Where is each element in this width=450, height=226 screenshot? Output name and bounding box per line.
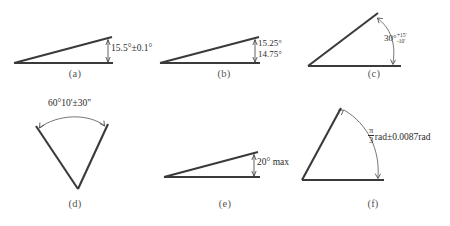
caption-f: (f) (296, 198, 450, 209)
panel-d-drawing (0, 96, 150, 201)
caption-d: (d) (0, 198, 150, 209)
upper-limit-label: 15.25° (258, 38, 282, 49)
panel-c: 30°+15'-10' (c) (298, 0, 450, 90)
angled-ray (302, 108, 341, 180)
right-ray (78, 124, 108, 189)
caption-e: (e) (150, 198, 300, 209)
angled-ray (164, 152, 258, 177)
angle-label-a: 15.5°±0.1° (111, 43, 152, 53)
angle-label-e: 20° max (257, 157, 289, 167)
caption-c: (c) (298, 68, 450, 79)
fraction-denominator: 3 (368, 135, 374, 145)
tolerance-label-f: ±0.0087rad (387, 132, 430, 142)
tolerance-lower-c: -10' (397, 39, 406, 45)
tolerance-stack-c: +15'-10' (397, 33, 406, 44)
limit-dimensions-b: 15.25° 14.75° (258, 38, 282, 59)
panel-d: 60°10'±30" (d) (0, 96, 150, 226)
caption-a: (a) (0, 68, 150, 79)
caption-b: (b) (148, 68, 300, 79)
panel-e: 20° max (e) (150, 96, 300, 226)
rad-unit-label: rad (375, 132, 387, 142)
angle-label-c: 30°+15'-10' (384, 33, 406, 45)
angled-ray (308, 13, 378, 66)
lower-limit-label: 14.75° (258, 49, 282, 60)
angle-label-f: π3rad±0.0087rad (368, 126, 430, 144)
angled-ray (160, 37, 259, 63)
angle-label-d: 60°10'±30" (48, 98, 91, 108)
panel-b: 15.25° 14.75° (b) (148, 0, 300, 90)
left-ray (36, 126, 78, 189)
angled-ray (14, 37, 112, 63)
nominal-value-c: 30° (384, 33, 397, 43)
fraction-numerator: π (368, 126, 374, 135)
panel-e-drawing (150, 96, 300, 201)
panel-f: π3rad±0.0087rad (f) (296, 96, 450, 226)
panel-f-drawing (296, 96, 450, 201)
angle-arc (39, 117, 105, 128)
panel-a: 15.5°±0.1° (a) (0, 0, 150, 90)
angle-tolerance-figure: 15.5°±0.1° (a) 15.25° 14.75° (b) 30°+15'… (0, 0, 450, 226)
arrowhead-arc-left (40, 123, 45, 128)
pi-over-three-fraction: π3 (368, 126, 374, 144)
